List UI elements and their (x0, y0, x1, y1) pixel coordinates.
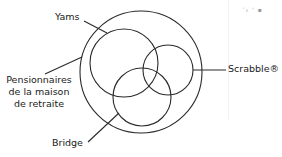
venn-diagram: Yams Scrabble® Bridge Pensionnaires de l… (0, 0, 282, 157)
yams-label: Yams (55, 11, 80, 23)
universe-leader-line (45, 57, 82, 74)
universe-label-line-3: de retraite (0, 98, 78, 110)
yams-circle (90, 29, 158, 97)
scrabble-circle (143, 45, 193, 95)
bleed-through-artifact: ʿ₅ ' ▪ (243, 6, 263, 13)
bridge-label: Bridge (52, 137, 83, 149)
bridge-leader-line (88, 113, 119, 142)
universe-label-line-2: de la maison (0, 86, 78, 98)
universe-label: Pensionnaires de la maison de retraite (0, 74, 78, 110)
scrabble-label: Scrabble® (228, 63, 279, 75)
universe-circle (80, 11, 202, 133)
universe-label-line-1: Pensionnaires (0, 74, 78, 86)
